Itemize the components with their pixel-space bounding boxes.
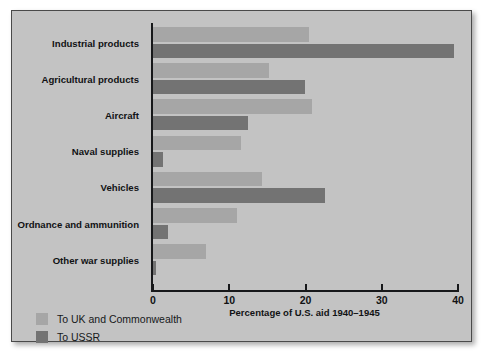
bar-ussr bbox=[153, 261, 156, 276]
x-axis-tick-label: 30 bbox=[376, 294, 388, 306]
bar-uk bbox=[153, 27, 309, 42]
chart-figure: 010203040 Industrial productsAgricultura… bbox=[0, 0, 492, 359]
x-axis-tick bbox=[305, 284, 307, 292]
category-label: Vehicles bbox=[12, 182, 145, 193]
bar-uk bbox=[153, 172, 262, 187]
category-label: Industrial products bbox=[12, 38, 145, 49]
bar-uk bbox=[153, 244, 206, 259]
category-label: Agricultural products bbox=[12, 74, 145, 85]
x-axis-tick-label: 10 bbox=[223, 294, 235, 306]
legend-label: To UK and Commonwealth bbox=[57, 313, 182, 325]
legend-item: To UK and Commonwealth bbox=[36, 311, 182, 327]
bar-ussr bbox=[153, 152, 163, 167]
x-axis-tick-label: 40 bbox=[452, 294, 464, 306]
plot-area: 010203040 Industrial productsAgricultura… bbox=[12, 11, 471, 341]
bar-ussr bbox=[153, 188, 325, 203]
legend-swatch bbox=[36, 331, 48, 343]
legend-item: To USSR bbox=[36, 329, 182, 345]
legend-swatch bbox=[36, 313, 48, 325]
bar-ussr bbox=[153, 44, 454, 59]
bar-ussr bbox=[153, 116, 248, 131]
x-axis-tick-label: 0 bbox=[150, 294, 156, 306]
x-axis-tick bbox=[228, 284, 230, 292]
x-axis-tick bbox=[152, 284, 154, 292]
chart-panel: 010203040 Industrial productsAgricultura… bbox=[11, 10, 472, 342]
category-label: Other war supplies bbox=[12, 255, 145, 266]
category-label: Naval supplies bbox=[12, 146, 145, 157]
chart-legend: To UK and CommonwealthTo USSR bbox=[36, 311, 182, 347]
bar-uk bbox=[153, 99, 312, 114]
bar-uk bbox=[153, 208, 237, 223]
bar-uk bbox=[153, 63, 269, 78]
bar-uk bbox=[153, 136, 241, 151]
category-label: Aircraft bbox=[12, 110, 145, 121]
category-label: Ordnance and ammunition bbox=[12, 219, 145, 230]
x-axis-tick-label: 20 bbox=[300, 294, 312, 306]
bar-ussr bbox=[153, 80, 305, 95]
legend-label: To USSR bbox=[57, 331, 100, 343]
x-axis-tick bbox=[457, 284, 459, 292]
x-axis-title: Percentage of U.S. aid 1940–1945 bbox=[151, 307, 458, 318]
bar-ussr bbox=[153, 225, 168, 240]
x-axis-tick bbox=[381, 284, 383, 292]
